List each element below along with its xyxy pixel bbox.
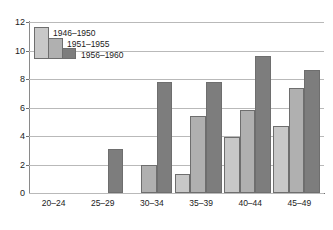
legend-label: 1951–1955 [67, 40, 110, 49]
legend: 1946–1950 1951–1955 1956–1960 [34, 27, 234, 75]
bar [141, 165, 157, 194]
legend-label: 1956–1960 [81, 51, 124, 60]
y-tick-label: 2 [20, 160, 25, 169]
gridline [29, 193, 324, 194]
x-tick-label: 35–39 [177, 199, 226, 208]
legend-swatch-1946-1950 [34, 27, 49, 59]
x-tick-label: 45–49 [275, 199, 324, 208]
y-tick-label: 4 [20, 132, 25, 141]
x-tick-label: 30–34 [127, 199, 176, 208]
y-tick-label: 8 [20, 75, 25, 84]
bar-chart: 12 10 8 6 4 2 0 20–2425–2930–3435–3940–4… [0, 0, 333, 230]
legend-swatch-1951-1955 [48, 38, 63, 59]
y-tick-label: 10 [15, 46, 25, 55]
bar-group [275, 22, 324, 193]
y-tick-label: 6 [20, 103, 25, 112]
bar [157, 82, 173, 193]
x-tick-label: 20–24 [29, 199, 78, 208]
bar [206, 82, 222, 193]
bar [289, 88, 305, 193]
x-tick-label: 25–29 [78, 199, 127, 208]
bar [108, 149, 124, 193]
legend-swatch-1956-1960 [62, 48, 76, 59]
bar [240, 110, 256, 193]
bar [224, 137, 240, 193]
bar [304, 70, 320, 193]
y-tick-label: 0 [20, 189, 25, 198]
y-axis-tick-labels: 12 10 8 6 4 2 0 [0, 0, 25, 230]
bar [255, 56, 271, 194]
x-tick-label: 40–44 [226, 199, 275, 208]
bar [175, 174, 191, 193]
bar [273, 126, 289, 193]
bar [190, 116, 206, 193]
y-tick-label: 12 [15, 18, 25, 27]
legend-label: 1946–1950 [53, 29, 96, 38]
